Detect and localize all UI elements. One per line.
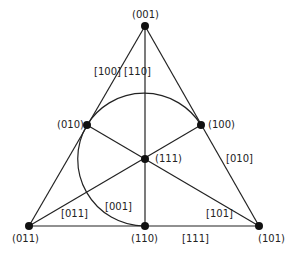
label-line-111: [111]	[182, 234, 209, 244]
label-point-011: (011)	[12, 234, 39, 244]
point-101	[255, 222, 263, 230]
label-point-110: (110)	[131, 234, 158, 244]
point-010	[83, 121, 91, 129]
point-001	[141, 22, 149, 30]
point-110	[141, 222, 149, 230]
label-point-010: (010)	[57, 120, 84, 130]
point-100	[197, 121, 205, 129]
label-line-110: [110]	[124, 67, 151, 77]
label-line-100: [100]	[94, 67, 121, 77]
point-011	[25, 222, 33, 230]
label-line-011: [011]	[61, 209, 88, 219]
point-111	[141, 155, 149, 163]
label-point-111: (111)	[155, 154, 182, 164]
fano-plane-diagram	[0, 0, 294, 254]
label-point-001: (001)	[132, 10, 159, 20]
label-point-101: (101)	[258, 234, 285, 244]
label-line-001: [001]	[105, 202, 132, 212]
label-line-101: [101]	[206, 209, 233, 219]
label-line-010: [010]	[226, 154, 253, 164]
circle-line-001	[78, 93, 201, 226]
label-point-100: (100)	[208, 120, 235, 130]
